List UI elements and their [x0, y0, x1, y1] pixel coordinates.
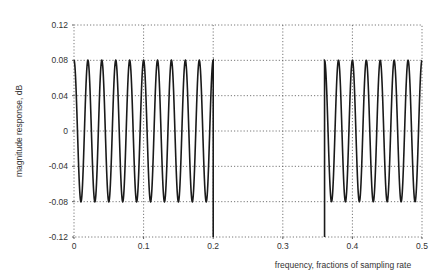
- y-tick-label: 0.08: [51, 55, 68, 65]
- y-tick-label: 0.04: [51, 91, 68, 101]
- x-tick-label: 0.5: [416, 241, 428, 251]
- x-axis-ticks: 00.10.20.30.40.5: [72, 237, 429, 251]
- upper-band-curve: [325, 60, 422, 237]
- x-tick-label: 0.2: [207, 241, 219, 251]
- response-curves: [74, 60, 422, 237]
- x-tick-label: 0.3: [277, 241, 289, 251]
- y-tick-label: -0.12: [49, 232, 69, 242]
- y-tick-label: -0.04: [49, 161, 69, 171]
- y-axis-label: magnitude response, dB: [14, 85, 24, 177]
- y-tick-label: 0.12: [51, 20, 68, 30]
- x-tick-label: 0.1: [138, 241, 150, 251]
- x-axis-label: frequency, fractions of sampling rate: [275, 260, 412, 270]
- y-tick-label: -0.08: [49, 197, 69, 207]
- x-tick-label: 0: [72, 241, 77, 251]
- x-tick-label: 0.4: [346, 241, 358, 251]
- y-axis-ticks: 0.120.080.040-0.04-0.08-0.12: [49, 20, 74, 242]
- magnitude-response-chart: 0.120.080.040-0.04-0.08-0.12 00.10.20.30…: [0, 0, 448, 275]
- y-tick-label: 0: [63, 126, 68, 136]
